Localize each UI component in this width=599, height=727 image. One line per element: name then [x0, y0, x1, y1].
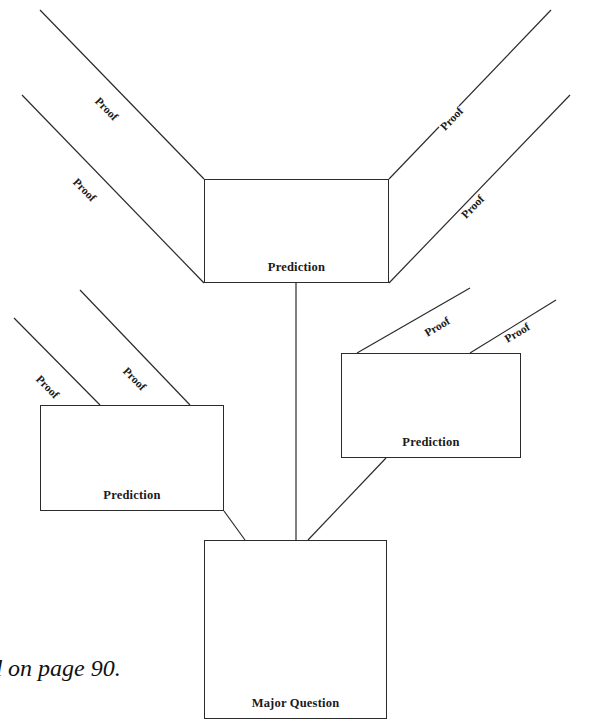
- figure-canvas: PredictionPredictionPredictionMajor Ques…: [0, 0, 599, 727]
- node-prediction-left[interactable]: Prediction: [40, 405, 224, 511]
- edge-top-proof-2: [22, 95, 204, 283]
- node-label: Prediction: [402, 435, 459, 457]
- edge-top-proof-1: [40, 10, 204, 179]
- edge-left-to-major: [224, 511, 245, 540]
- figure-caption: d on page 90.: [0, 655, 121, 682]
- node-label: Major Question: [252, 696, 340, 718]
- node-prediction-right[interactable]: Prediction: [341, 353, 521, 458]
- edge-right-to-major: [308, 458, 386, 540]
- node-label: Prediction: [103, 488, 160, 510]
- node-label: Prediction: [268, 260, 325, 282]
- edge-top-proof-4: [389, 95, 570, 283]
- node-major-question[interactable]: Major Question: [204, 540, 387, 719]
- edge-top-proof-3: [389, 10, 551, 179]
- node-prediction-top[interactable]: Prediction: [204, 179, 389, 283]
- edge-right-proof-1: [357, 288, 470, 353]
